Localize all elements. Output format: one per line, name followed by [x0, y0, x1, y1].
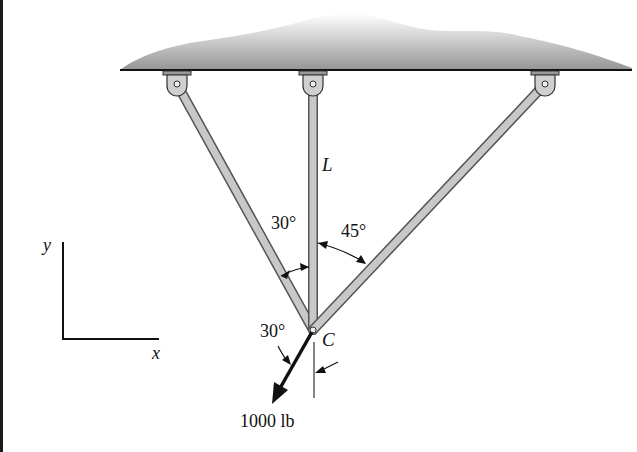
- force-angle-arrow-right: [315, 362, 338, 373]
- axis-label-y: y: [43, 236, 51, 254]
- diagram-graphics: [0, 0, 637, 452]
- angle-label-45-right: 45°: [341, 222, 366, 240]
- pin-support-center: [299, 71, 327, 96]
- joint-label-C: C: [322, 330, 335, 349]
- force-angle-label-30: 30°: [260, 322, 285, 340]
- force-angle-arrow-left: [278, 346, 291, 365]
- ceiling-support: [120, 13, 632, 70]
- member-right: [313, 84, 545, 330]
- angle-arc-45-right: [318, 241, 366, 264]
- truss-diagram: L 30° 45° C 30° 1000 lb y x: [0, 0, 637, 452]
- angle-label-30-left: 30°: [271, 214, 296, 232]
- member-label-L: L: [322, 155, 333, 174]
- axis-label-x: x: [152, 344, 160, 362]
- force-arrow-1000lb: [272, 332, 312, 404]
- force-value-label: 1000 lb: [240, 412, 295, 430]
- member-left: [177, 84, 313, 330]
- coordinate-axes: [62, 242, 159, 340]
